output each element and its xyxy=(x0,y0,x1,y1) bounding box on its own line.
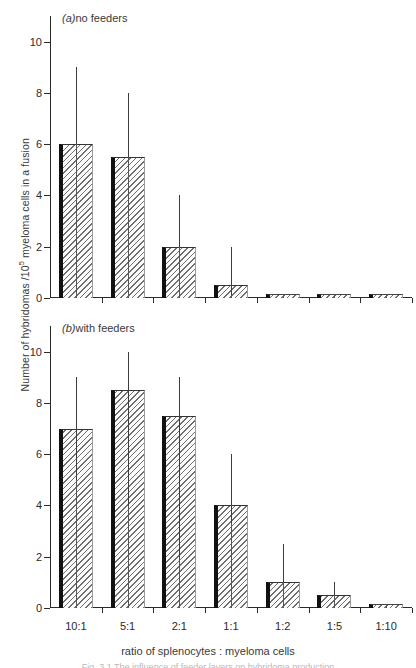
x-tick-a-7 xyxy=(412,298,413,303)
x-tick-a-3 xyxy=(205,298,206,303)
y-tick-b-6 xyxy=(44,454,50,455)
y-tick-a-6 xyxy=(44,144,50,145)
y-tick-b-4 xyxy=(44,505,50,506)
panel-a-label: no feeders xyxy=(75,12,127,24)
figure-hybridoma-feeders: Number of hybridomas /105 myeloma cells … xyxy=(0,0,416,668)
y-tick-a-8 xyxy=(44,93,50,94)
bar-split-a-5 xyxy=(334,294,335,298)
error-bar-b-1-2 xyxy=(283,544,284,582)
y-tick-label-b-10: 10 xyxy=(18,352,42,353)
y-tick-label-a-0: 0 xyxy=(18,298,42,299)
panel-a-title: (a)no feeders xyxy=(62,12,127,24)
x-tick-a-2 xyxy=(153,298,154,303)
bar-split-b-4 xyxy=(283,582,284,608)
y-axis-title-superscript: 5 xyxy=(17,261,26,265)
y-tick-b-8 xyxy=(44,403,50,404)
error-bar-b-5-1 xyxy=(128,352,129,506)
y-tick-label-a-10: 10 xyxy=(18,42,42,43)
x-tick-b-1 xyxy=(102,608,103,613)
bar-split-b-6 xyxy=(386,604,387,608)
y-tick-label-b-0: 0 xyxy=(18,608,42,609)
y-tick-label-b-4: 4 xyxy=(18,505,42,506)
error-bar-b-2-1 xyxy=(179,377,180,556)
y-tick-a-2 xyxy=(44,247,50,248)
panel-a-prefix: (a) xyxy=(62,12,75,24)
error-bar-b-1-5 xyxy=(334,582,335,595)
plot-area-b: (b)with feeders 024681010:15:12:11:11:21… xyxy=(50,326,412,608)
error-bar-b-1-1 xyxy=(231,454,232,523)
x-tick-a-5 xyxy=(309,298,310,303)
error-bar-b-10-1 xyxy=(76,377,77,480)
y-tick-b-10 xyxy=(44,352,50,353)
panel-b-label: with feeders xyxy=(75,322,134,334)
panel-a-no-feeders: (a)no feeders 0246810 xyxy=(50,16,412,298)
y-tick-label-b-2: 2 xyxy=(18,557,42,558)
y-tick-b-0 xyxy=(44,608,50,609)
figure-caption: Fig. 3.1 The influence of feeder layers … xyxy=(0,662,416,668)
y-axis-title: Number of hybridomas /105 myeloma cells … xyxy=(17,95,31,435)
y-tick-b-2 xyxy=(44,557,50,558)
error-bar-a-1-1 xyxy=(231,247,232,296)
bar-split-a-6 xyxy=(386,294,387,298)
y-axis-title-main: Number of hybridomas /10 xyxy=(19,265,31,391)
y-tick-label-a-4: 4 xyxy=(18,195,42,196)
bar-split-a-0 xyxy=(76,144,77,298)
x-tick-label-1-1: 1:1 xyxy=(204,620,258,632)
panel-b-prefix: (b) xyxy=(62,322,75,334)
x-tick-label-1-10: 1:10 xyxy=(359,620,413,632)
y-tick-label-a-6: 6 xyxy=(18,144,42,145)
x-tick-label-10-1: 10:1 xyxy=(49,620,103,632)
x-tick-b-7 xyxy=(412,608,413,613)
y-tick-a-10 xyxy=(44,42,50,43)
y-tick-a-0 xyxy=(44,298,50,299)
x-tick-a-6 xyxy=(360,298,361,303)
y-axis-line-b xyxy=(50,326,51,608)
x-tick-label-1-5: 1:5 xyxy=(307,620,361,632)
plot-area-a: (a)no feeders 0246810 xyxy=(50,16,412,298)
x-tick-label-5-1: 5:1 xyxy=(101,620,155,632)
x-tick-a-1 xyxy=(102,298,103,303)
x-tick-b-6 xyxy=(360,608,361,613)
bar-split-a-1 xyxy=(128,157,129,298)
x-tick-b-3 xyxy=(205,608,206,613)
bar-split-a-2 xyxy=(179,247,180,298)
x-tick-label-2-1: 2:1 xyxy=(152,620,206,632)
x-axis-title: ratio of splenocytes : myeloma cells xyxy=(0,645,416,657)
x-tick-b-4 xyxy=(257,608,258,613)
x-tick-label-1-2: 1:2 xyxy=(256,620,310,632)
y-tick-label-b-6: 6 xyxy=(18,454,42,455)
y-tick-label-b-8: 8 xyxy=(18,403,42,404)
bar-split-b-5 xyxy=(334,595,335,608)
panel-b-title: (b)with feeders xyxy=(62,322,135,334)
panel-b-with-feeders: (b)with feeders 024681010:15:12:11:11:21… xyxy=(50,326,412,608)
y-tick-a-4 xyxy=(44,195,50,196)
error-bar-a-2-1 xyxy=(179,195,180,246)
y-axis-title-tail: myeloma cells in a fusion xyxy=(19,138,31,261)
y-tick-label-a-2: 2 xyxy=(18,247,42,248)
y-tick-label-a-8: 8 xyxy=(18,93,42,94)
x-tick-a-4 xyxy=(257,298,258,303)
x-tick-b-2 xyxy=(153,608,154,613)
x-tick-b-5 xyxy=(309,608,310,613)
error-bar-a-5-1 xyxy=(128,93,129,157)
y-axis-line-a xyxy=(50,16,51,298)
error-bar-a-10-1 xyxy=(76,67,77,144)
bar-split-a-4 xyxy=(283,294,284,298)
